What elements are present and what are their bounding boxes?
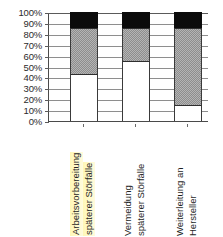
x-axis-category-label: Vermeidungspäterer Störfälle <box>122 124 148 236</box>
bar-segment-black-segment <box>174 12 202 28</box>
y-axis-tick-mark <box>45 111 49 112</box>
stacked-bar-chart: 100%90%80%70%60%50%40%30%20%10%0% Arbeit… <box>0 0 223 237</box>
bar-segment-black-segment <box>122 12 150 28</box>
x-axis-category-label-line: späterer Störfälle <box>83 162 96 236</box>
bar-segment-gray-segment <box>122 28 150 61</box>
y-axis-tick-mark <box>45 89 49 90</box>
y-axis-tick-mark <box>45 122 49 123</box>
y-axis-tick-label: 30% <box>0 84 42 94</box>
y-axis-tick-label: 10% <box>0 106 42 116</box>
y-axis-tick-mark <box>45 35 49 36</box>
y-axis-tick-mark <box>45 68 49 69</box>
bar-column <box>122 13 150 121</box>
y-axis-tick-mark <box>45 100 49 101</box>
y-axis-tick-mark <box>45 13 49 14</box>
x-axis-category-label-line: Vermeidung <box>122 185 135 236</box>
x-axis-category-label: Weiterleitung anHersteller <box>174 124 200 236</box>
y-axis-tick-label: 40% <box>0 73 42 83</box>
x-axis-category-label: Arbeitsvorbereitungspäterer Störfälle <box>70 124 96 236</box>
x-axis-tick-mark <box>83 124 84 127</box>
bar-segment-white-segment <box>122 61 150 121</box>
bar-segment-white-segment <box>174 105 202 121</box>
x-axis-category-label-line: Weiterleitung an <box>174 168 187 236</box>
y-axis-tick-labels: 100%90%80%70%60%50%40%30%20%10%0% <box>0 13 44 122</box>
plot-area <box>48 13 208 122</box>
y-axis-tick-label: 50% <box>0 63 42 73</box>
x-axis-category-labels: Arbeitsvorbereitungspäterer StörfälleVer… <box>48 124 208 237</box>
x-axis-tick-mark <box>187 124 188 127</box>
bar-segment-white-segment <box>70 74 98 121</box>
x-axis-tick-mark <box>135 124 136 127</box>
y-axis-tick-label: 60% <box>0 52 42 62</box>
bar-segment-gray-segment <box>70 28 98 74</box>
bar-segment-black-segment <box>70 12 98 28</box>
y-axis-tick-mark <box>45 46 49 47</box>
y-axis-tick-label: 100% <box>0 8 42 18</box>
x-axis-category-label-line: Hersteller <box>187 195 200 236</box>
bar-column <box>70 13 98 121</box>
bar-segment-gray-segment <box>174 28 202 104</box>
x-axis-category-label-line: späterer Störfälle <box>135 164 148 236</box>
y-axis-tick-label: 90% <box>0 19 42 29</box>
y-axis-tick-mark <box>45 57 49 58</box>
y-axis-tick-mark <box>45 78 49 79</box>
y-axis-tick-label: 20% <box>0 95 42 105</box>
y-axis-tick-label: 0% <box>0 117 42 127</box>
y-axis-tick-mark <box>45 24 49 25</box>
bar-column <box>174 13 202 121</box>
y-axis-tick-label: 80% <box>0 30 42 40</box>
x-axis-category-label-line: Arbeitsvorbereitung <box>70 152 83 236</box>
y-axis-tick-label: 70% <box>0 41 42 51</box>
